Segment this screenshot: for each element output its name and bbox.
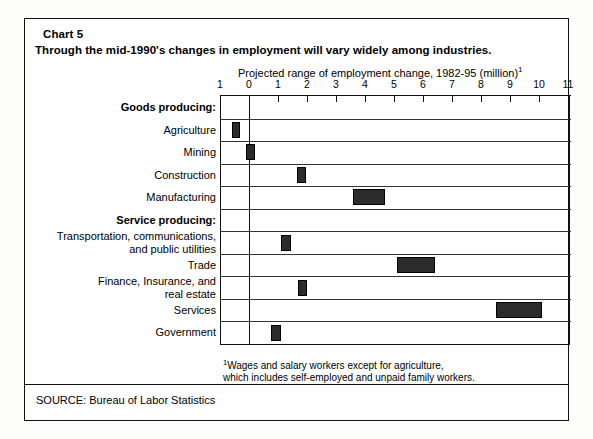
- figure-page: Chart 5 Through the mid-1990's changes i…: [0, 0, 593, 439]
- range-bar: [232, 122, 241, 138]
- row-separator: [220, 299, 571, 300]
- range-bar: [246, 144, 255, 160]
- row-separator: [220, 254, 571, 255]
- footnote: 1Wages and salary workers except for agr…: [223, 357, 523, 384]
- row-separator: [220, 186, 571, 187]
- range-bar: [397, 257, 435, 273]
- x-tick-label: 3: [326, 78, 346, 90]
- x-tick-label: 11: [558, 78, 578, 90]
- x-tick-label: 0: [239, 78, 259, 90]
- range-bar: [297, 167, 306, 183]
- row-separator: [220, 164, 571, 165]
- category-label: Manufacturing: [146, 191, 216, 204]
- category-label: Government: [155, 326, 216, 339]
- x-tick-label: 5: [384, 78, 404, 90]
- range-bar: [271, 325, 281, 341]
- x-tick-label: 9: [500, 78, 520, 90]
- x-tick-label: 1: [268, 78, 288, 90]
- row-separator: [220, 231, 571, 232]
- category-label: Finance, Insurance, andreal estate: [98, 275, 216, 300]
- x-tick-label: 10: [529, 78, 549, 90]
- category-label: Mining: [184, 146, 216, 159]
- x-tick-label: 6: [413, 78, 433, 90]
- category-group-label: Goods producing:: [121, 101, 216, 114]
- range-bar: [496, 302, 542, 318]
- axis-caption-footnote-marker: 1: [518, 65, 522, 74]
- row-separator: [220, 209, 571, 210]
- row-separator: [220, 119, 571, 120]
- x-tick-label: 7: [442, 78, 462, 90]
- row-separator: [220, 321, 571, 322]
- range-bar: [298, 280, 307, 296]
- source-line: SOURCE: Bureau of Labor Statistics: [36, 394, 215, 406]
- category-group-label: Service producing:: [116, 214, 216, 227]
- x-tick-label: 2: [297, 78, 317, 90]
- row-separator: [220, 141, 571, 142]
- source-divider: [25, 384, 568, 385]
- row-separator: [220, 276, 571, 277]
- axis-caption: Projected range of employment change, 19…: [238, 65, 523, 79]
- category-label: Agriculture: [163, 124, 216, 137]
- chart-number-label: Chart 5: [43, 28, 83, 40]
- footnote-line-2: which includes self-employed and unpaid …: [223, 372, 475, 383]
- range-bar: [353, 189, 385, 205]
- footnote-line-1: Wages and salary workers except for agri…: [227, 360, 443, 371]
- category-label: Trade: [188, 259, 216, 272]
- chart-headline: Through the mid-1990's changes in employ…: [35, 44, 492, 56]
- axis-caption-text: Projected range of employment change, 19…: [238, 67, 518, 79]
- x-tick-label: 1: [210, 78, 230, 90]
- x-tick-label: 4: [355, 78, 375, 90]
- zero-reference-line: [249, 95, 250, 345]
- range-bar: [281, 235, 291, 251]
- category-label-column: Goods producing:AgricultureMiningConstru…: [30, 96, 216, 344]
- category-label: Services: [174, 304, 216, 317]
- category-label: Construction: [154, 169, 216, 182]
- x-tick-label: 8: [471, 78, 491, 90]
- category-label: Transportation, communications,and publi…: [57, 230, 216, 255]
